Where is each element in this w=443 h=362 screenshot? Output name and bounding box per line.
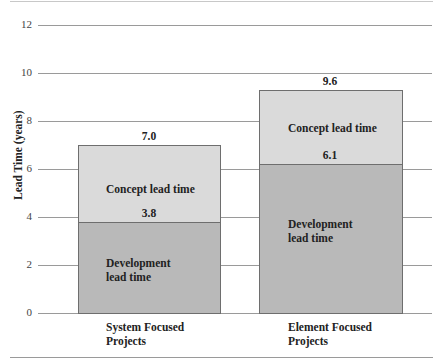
x-category-line1: Element Focused	[288, 320, 372, 334]
y-tick-10: 10	[18, 66, 32, 78]
dev-label-line1: Development	[288, 217, 353, 231]
dev-label-line2: lead time	[288, 231, 353, 245]
x-category-line2: Projects	[106, 334, 184, 348]
bar-element-concept-label: Concept lead time	[288, 121, 377, 135]
dev-label-line1: Development	[106, 256, 171, 270]
y-tick-12: 12	[18, 18, 32, 30]
x-category-line2: Projects	[288, 334, 372, 348]
x-category-element: Element Focused Projects	[288, 320, 372, 348]
gridline-12	[38, 25, 432, 26]
bar-element-total-value: 9.6	[300, 75, 360, 87]
x-category-system: System Focused Projects	[106, 320, 184, 348]
bar-element-dev-value: 6.1	[300, 149, 360, 161]
x-category-line1: System Focused	[106, 320, 184, 334]
y-tick-2: 2	[18, 258, 32, 270]
y-tick-4: 4	[18, 210, 32, 222]
gridline-10	[38, 73, 432, 74]
bar-system-concept-label: Concept lead time	[106, 182, 195, 196]
bar-system-dev-label: Development lead time	[106, 256, 171, 284]
bar-system-total-value: 7.0	[119, 130, 179, 142]
y-tick-0: 0	[18, 306, 32, 318]
top-rule	[10, 1, 433, 2]
bar-system-dev-value: 3.8	[119, 207, 179, 219]
dev-label-line2: lead time	[106, 270, 171, 284]
y-axis-label: Lead Time (years)	[12, 110, 24, 200]
bottom-rule	[10, 357, 433, 358]
bar-element-dev-label: Development lead time	[288, 217, 353, 245]
